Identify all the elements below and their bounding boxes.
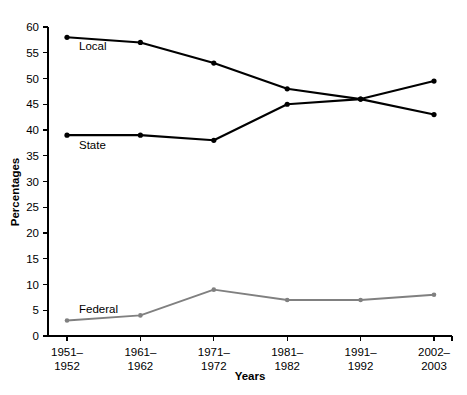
series-label-local: Local bbox=[79, 40, 107, 52]
x-axis-title: Years bbox=[235, 370, 266, 382]
data-point-state-0 bbox=[64, 133, 69, 138]
y-tick-label: 0 bbox=[33, 330, 39, 342]
data-point-state-3 bbox=[285, 102, 290, 107]
y-tick-label: 55 bbox=[26, 47, 39, 59]
series-label-state: State bbox=[79, 139, 106, 151]
x-tick-label: 1991– bbox=[345, 346, 378, 358]
y-tick-label: 5 bbox=[33, 304, 39, 316]
x-tick-label: 1951– bbox=[51, 346, 84, 358]
chart-axes bbox=[48, 27, 452, 336]
data-point-federal-0 bbox=[65, 318, 70, 323]
x-tick-label: 1972 bbox=[201, 360, 227, 372]
y-tick-label: 50 bbox=[26, 73, 39, 85]
x-axis-ticks: 1951–19521961–19621971–19721981–19821991… bbox=[51, 336, 452, 372]
y-tick-label: 20 bbox=[26, 227, 39, 239]
y-tick-label: 35 bbox=[26, 150, 39, 162]
chart-plot-area: 051015202530354045505560 1951–19521961–1… bbox=[0, 0, 467, 395]
data-point-state-1 bbox=[138, 133, 143, 138]
x-tick-label: 1952 bbox=[54, 360, 80, 372]
y-axis-title: Percentages bbox=[9, 158, 21, 226]
data-point-federal-1 bbox=[138, 313, 143, 318]
y-axis-ticks: 051015202530354045505560 bbox=[26, 21, 48, 342]
data-point-state-4 bbox=[358, 97, 363, 102]
series-line-state bbox=[67, 81, 434, 140]
data-point-local-1 bbox=[138, 40, 143, 45]
data-point-local-3 bbox=[285, 86, 290, 91]
y-tick-label: 10 bbox=[26, 279, 39, 291]
series-label-federal: Federal bbox=[79, 303, 118, 315]
data-point-state-5 bbox=[431, 78, 436, 83]
x-tick-label: 1992 bbox=[348, 360, 374, 372]
y-tick-label: 40 bbox=[26, 124, 39, 136]
y-tick-label: 45 bbox=[26, 98, 39, 110]
data-point-federal-4 bbox=[358, 298, 363, 303]
data-point-local-5 bbox=[431, 112, 436, 117]
data-point-federal-5 bbox=[432, 293, 437, 298]
x-tick-label: 1981– bbox=[271, 346, 304, 358]
x-tick-label: 2002– bbox=[418, 346, 451, 358]
series-line-local bbox=[67, 37, 434, 114]
data-point-federal-3 bbox=[285, 298, 290, 303]
x-tick-label: 1962 bbox=[128, 360, 154, 372]
series-line-federal bbox=[67, 290, 434, 321]
data-point-local-2 bbox=[211, 60, 216, 65]
y-tick-label: 30 bbox=[26, 176, 39, 188]
line-chart-figure: 051015202530354045505560 1951–19521961–1… bbox=[0, 0, 467, 395]
y-tick-label: 15 bbox=[26, 253, 39, 265]
x-tick-label: 2003 bbox=[421, 360, 447, 372]
data-point-federal-2 bbox=[212, 287, 217, 292]
data-point-state-2 bbox=[211, 138, 216, 143]
y-tick-label: 60 bbox=[26, 21, 39, 33]
data-point-local-0 bbox=[64, 35, 69, 40]
x-tick-label: 1961– bbox=[124, 346, 157, 358]
x-tick-label: 1982 bbox=[274, 360, 300, 372]
chart-series bbox=[64, 35, 436, 323]
x-tick-label: 1971– bbox=[198, 346, 231, 358]
y-tick-label: 25 bbox=[26, 201, 39, 213]
series-inline-labels: LocalStateFederal bbox=[79, 40, 118, 314]
